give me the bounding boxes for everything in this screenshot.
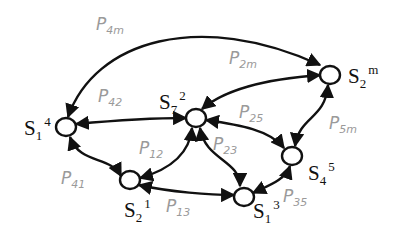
node-label-s1-4: S14 [24,115,51,142]
edge-label-p41: P41 [61,170,85,190]
node-label-s4-5: S45 [308,160,335,187]
edge-p42 [76,118,186,124]
edge-label-p13: P13 [166,198,190,218]
node-s7-2 [186,109,206,127]
edge-label-p25: P25 [239,104,263,124]
node-label-s2-m: S2m [348,63,378,90]
edge-label-p5m: P5m [329,115,357,135]
node-s4-5 [282,147,302,165]
edge-p5m [295,85,328,146]
edge-label-p2m: P2m [229,50,257,70]
edge-label-p42: P42 [98,88,122,108]
node-label-s7-2: S72 [159,89,186,116]
node-label-s1-3: S13 [253,198,280,225]
node-s2-m [320,66,340,84]
edge-label-p35: P35 [283,188,307,208]
edge-label-p12: P12 [139,140,163,160]
node-s2-1 [120,171,140,189]
edge-label-p4m: P4m [96,16,124,36]
edge-label-p23: P23 [213,136,237,156]
node-s1-3 [234,188,254,206]
node-s1-4 [56,118,76,136]
state-transition-diagram: S14 S72 S2m S45 S21 S13 P4m P2m P42 P25 … [0,0,405,244]
edge-p13 [139,185,234,195]
node-label-s2-1: S21 [124,197,151,224]
